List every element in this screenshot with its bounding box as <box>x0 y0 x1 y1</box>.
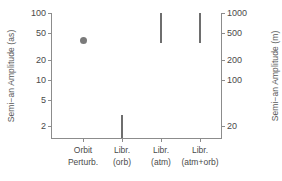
data-bar-libr-atm <box>160 13 162 43</box>
axis-spine-left <box>51 13 52 139</box>
y-tick-right-mark <box>222 60 225 61</box>
y-tick-label-left: 5 <box>6 96 46 105</box>
plot-area: 100 50 20 10 5 2 1000 500 200 100 20 Orb… <box>51 13 222 139</box>
y-tick-label-left: 2 <box>6 122 46 131</box>
y-tick-label-right: 20 <box>227 122 267 131</box>
y-tick-label-right: 100 <box>227 76 267 85</box>
y-tick-label-right: 500 <box>227 29 267 38</box>
data-bar-libr-orb <box>121 115 123 138</box>
y-tick-left-mark <box>48 100 51 101</box>
y-tick-label-right: 200 <box>227 56 267 65</box>
y-tick-left-mark <box>48 80 51 81</box>
axis-spine-right <box>221 13 222 139</box>
y-tick-left-mark <box>48 60 51 61</box>
data-point-orbit-perturb <box>80 37 87 44</box>
y-tick-left-mark <box>48 13 51 14</box>
x-tick-mark <box>122 139 123 142</box>
x-category-line2: (atm+orb) <box>160 156 240 168</box>
x-tick-mark <box>200 139 201 142</box>
y-tick-label-left: 100 <box>6 9 46 18</box>
y-tick-left-mark <box>48 126 51 127</box>
y-tick-label-left: 20 <box>6 56 46 65</box>
y-tick-right-mark <box>222 80 225 81</box>
x-category-line1: Libr. <box>160 144 240 156</box>
y-tick-label-left: 50 <box>6 29 46 38</box>
x-tick-mark <box>83 139 84 142</box>
y-tick-right-mark <box>222 126 225 127</box>
y-tick-right-mark <box>222 33 225 34</box>
axis-spine-bottom <box>51 138 222 139</box>
data-bar-libr-atm-orb <box>199 13 201 43</box>
y-tick-label-left: 10 <box>6 76 46 85</box>
x-tick-mark <box>161 139 162 142</box>
chart-figure: Semi−an Amplitude (as) Semi−an Amplitude… <box>0 0 282 181</box>
y-axis-right-title: Semi−an Amplitude (m) <box>268 6 282 146</box>
y-tick-left-mark <box>48 33 51 34</box>
x-category-label-libr-atm-orb: Libr. (atm+orb) <box>160 144 240 168</box>
y-tick-right-mark <box>222 13 225 14</box>
y-tick-label-right: 1000 <box>227 9 267 18</box>
